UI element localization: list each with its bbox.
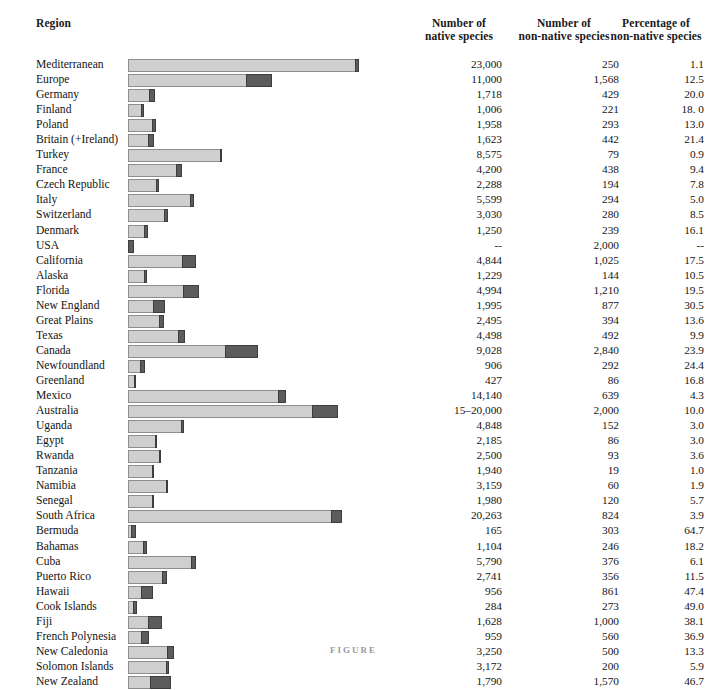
bar-segment-native xyxy=(128,556,191,569)
region-label: Egypt xyxy=(36,433,64,448)
stacked-bar xyxy=(128,240,134,253)
bar-segment-native xyxy=(128,315,159,328)
chart-row: Tanzania1,940191.0 xyxy=(0,464,707,479)
chart-row: Newfoundland90629224.4 xyxy=(0,359,707,374)
stacked-bar xyxy=(128,164,182,177)
bar-segment-nonnative xyxy=(140,360,145,373)
percentage-nonnative-value: 4.3 xyxy=(600,388,704,403)
percentage-nonnative-value: 21.4 xyxy=(600,132,704,147)
bar-segment-nonnative xyxy=(141,104,144,117)
region-label: USA xyxy=(36,238,59,253)
chart-row: Cuba5,7903766.1 xyxy=(0,555,707,570)
chart-rows: Mediterranean23,0002501.1Europe11,0001,5… xyxy=(0,58,707,690)
bar-segment-nonnative xyxy=(166,480,168,493)
chart-row: Florida4,9941,21019.5 xyxy=(0,284,707,299)
chart-row: Senegal1,9801205.7 xyxy=(0,494,707,509)
chart-row: Solomon Islands3,1722005.9 xyxy=(0,660,707,675)
region-label: Newfoundland xyxy=(36,358,105,373)
percentage-nonnative-value: 1.9 xyxy=(600,478,704,493)
bar-segment-native xyxy=(128,571,162,584)
stacked-bar xyxy=(128,104,144,117)
bar-segment-nonnative xyxy=(148,616,162,629)
chart-row: Denmark1,25023916.1 xyxy=(0,224,707,239)
bar-segment-native xyxy=(128,676,150,689)
stacked-bar xyxy=(128,405,338,418)
native-species-value: 165 xyxy=(400,523,502,538)
native-species-value: 1,229 xyxy=(400,268,502,283)
column-header-percentage-nonnative: Percentage of non-native species xyxy=(608,17,704,43)
stacked-bar xyxy=(128,435,157,448)
region-label: Mediterranean xyxy=(36,57,104,72)
stacked-bar xyxy=(128,194,194,207)
bar-segment-nonnative xyxy=(220,149,222,162)
bar-segment-native xyxy=(128,209,164,222)
bar-segment-nonnative xyxy=(131,525,136,538)
percentage-nonnative-value: 11.5 xyxy=(600,569,704,584)
percentage-nonnative-value: 38.1 xyxy=(600,614,704,629)
stacked-bar xyxy=(128,541,147,554)
column-header-region: Region xyxy=(36,17,71,30)
percentage-nonnative-value: 3.0 xyxy=(600,418,704,433)
chart-row: France4,2004389.4 xyxy=(0,163,707,178)
native-species-value: 1,628 xyxy=(400,614,502,629)
percentage-nonnative-value: 13.0 xyxy=(600,117,704,132)
percentage-nonnative-value: 3.0 xyxy=(600,433,704,448)
region-label: Alaska xyxy=(36,268,68,283)
percentage-nonnative-value: 49.0 xyxy=(600,599,704,614)
stacked-bar xyxy=(128,450,161,463)
bar-segment-native xyxy=(128,225,144,238)
region-label: French Polynesia xyxy=(36,629,116,644)
native-species-value: 4,498 xyxy=(400,328,502,343)
column-header-nonnative-line1: Number of xyxy=(509,17,619,30)
bar-segment-native xyxy=(128,194,190,207)
bar-segment-nonnative xyxy=(190,194,194,207)
percentage-nonnative-value: 10.0 xyxy=(600,403,704,418)
chart-row: Egypt2,185863.0 xyxy=(0,434,707,449)
percentage-nonnative-value: 9.4 xyxy=(600,162,704,177)
bar-segment-nonnative xyxy=(152,495,154,508)
stacked-bar xyxy=(128,556,196,569)
chart-row: Czech Republic2,2881947.8 xyxy=(0,178,707,193)
stacked-bar xyxy=(128,285,199,298)
native-species-value: 3,159 xyxy=(400,478,502,493)
bar-segment-native xyxy=(128,465,152,478)
region-label: Germany xyxy=(36,87,79,102)
bar-segment-native xyxy=(128,450,159,463)
native-species-value: 5,599 xyxy=(400,192,502,207)
region-label: Bermuda xyxy=(36,523,79,538)
bar-segment-native xyxy=(128,285,183,298)
native-species-value: 4,844 xyxy=(400,253,502,268)
chart-row: Mediterranean23,0002501.1 xyxy=(0,58,707,73)
stacked-bar xyxy=(128,510,342,523)
native-species-value: 1,958 xyxy=(400,117,502,132)
bar-segment-nonnative xyxy=(312,405,338,418)
bar-segment-native xyxy=(128,104,141,117)
region-label: Namibia xyxy=(36,478,76,493)
native-species-value: 20,263 xyxy=(400,508,502,523)
stacked-bar xyxy=(128,525,136,538)
stacked-bar xyxy=(128,586,153,599)
native-species-value: 23,000 xyxy=(400,57,502,72)
chart-row: Greenland4278616.8 xyxy=(0,374,707,389)
native-species-value: 1,104 xyxy=(400,539,502,554)
bar-segment-nonnative xyxy=(152,465,154,478)
native-species-value: 284 xyxy=(400,599,502,614)
native-species-value: 1,623 xyxy=(400,132,502,147)
bar-segment-nonnative xyxy=(134,375,136,388)
region-label: Senegal xyxy=(36,493,73,508)
stacked-bar xyxy=(128,375,136,388)
percentage-nonnative-value: 30.5 xyxy=(600,298,704,313)
percentage-nonnative-value: 7.8 xyxy=(600,177,704,192)
stacked-bar xyxy=(128,390,286,403)
stacked-bar xyxy=(128,676,171,689)
bar-segment-nonnative xyxy=(181,420,184,433)
region-label: Tanzania xyxy=(36,463,78,478)
bar-segment-native xyxy=(128,300,153,313)
percentage-nonnative-value: 1.1 xyxy=(600,57,704,72)
bar-segment-nonnative xyxy=(149,89,155,102)
bar-segment-nonnative xyxy=(164,209,168,222)
percentage-nonnative-value: 36.9 xyxy=(600,629,704,644)
bar-segment-nonnative xyxy=(148,134,154,147)
chart-row: Bahamas1,10424618.2 xyxy=(0,540,707,555)
bar-segment-nonnative xyxy=(141,631,149,644)
